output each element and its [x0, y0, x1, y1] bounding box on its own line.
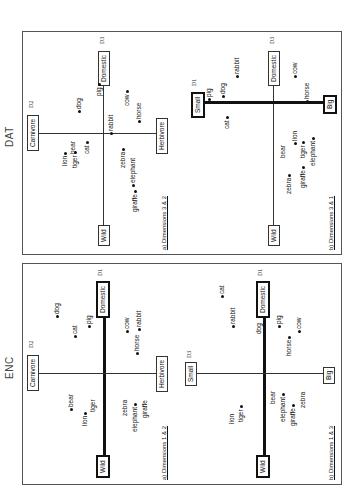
dot [132, 184, 135, 187]
dot [292, 404, 295, 407]
dot [134, 403, 137, 406]
dot [221, 295, 224, 298]
dot [84, 412, 87, 415]
point-cow: cow [295, 317, 302, 334]
point-bear: bear [269, 391, 276, 404]
plot-subtitle: b) Dimensions 1 & 3 [328, 426, 334, 480]
dot [122, 148, 125, 151]
group-label-enc: ENC [4, 356, 15, 379]
point-giraffe: giraffe [141, 400, 148, 418]
point-elephant: elephant [129, 158, 136, 188]
dim-label: D3 [186, 351, 192, 358]
dot [288, 174, 291, 177]
point-tiger: tiger [89, 399, 96, 412]
point-tiger: tiger [237, 404, 244, 422]
plot-subtitle: b) Dimensions 3 & 1 [328, 196, 334, 250]
dim-label: D3 [99, 37, 105, 44]
point-zebra: zebra [299, 392, 306, 408]
point-cow: cow [123, 89, 130, 106]
point-giraffe: giraffe [299, 165, 306, 188]
point-tiger: tiger [71, 150, 78, 168]
point-pig: pig [275, 315, 282, 329]
point-cat: cat [223, 115, 230, 129]
point-tiger: tiger [299, 140, 306, 158]
dim-label: D2 [28, 101, 34, 108]
axis-d2 [37, 133, 165, 134]
point-pig: pig [85, 315, 92, 329]
dot [98, 83, 101, 86]
pole-small: Small [191, 92, 205, 118]
plot-subtitle: a) Dimensions 1 & 2 [161, 426, 167, 480]
group-label-dat: DAT [4, 126, 15, 147]
pole-wild: Wild [98, 225, 110, 246]
dot [278, 325, 281, 328]
point-lion: lion [81, 411, 88, 426]
axis-d1 [201, 101, 331, 104]
point-zebra: zebra [121, 400, 128, 416]
pole-domestic: Domestic [256, 281, 270, 318]
pole-small: Small [185, 362, 197, 386]
point-bear: bear [279, 145, 286, 158]
point-rabbit: rabbit [135, 311, 142, 332]
point-dog: dog [219, 83, 226, 99]
point-zebra: zebra [119, 147, 126, 168]
point-horse: horse [133, 335, 140, 356]
point-elephant: elephant [279, 392, 286, 422]
point-horse: horse [303, 83, 310, 104]
dim-label: D1 [97, 269, 103, 276]
pole-wild: Wild [96, 455, 110, 478]
dot [226, 116, 229, 119]
dot [138, 120, 141, 123]
panel-dat: a) Dimensions 3 & 2 Wild Domestic D3 Car… [22, 31, 342, 255]
pole-domestic: Domestic [96, 281, 110, 318]
dot [86, 141, 89, 144]
pole-carnivore: Carnivore [27, 355, 39, 391]
point-elephant: elephant [309, 136, 316, 166]
dim-label: D2 [28, 341, 34, 348]
dot [306, 100, 309, 103]
dot [110, 132, 113, 135]
point-giraffe: giraffe [289, 403, 296, 426]
point-dog: dog [75, 98, 82, 114]
dot [56, 315, 59, 318]
point-elephant: elephant [131, 402, 138, 432]
dim-label: D3 [269, 37, 275, 44]
pole-domestic: Domestic [268, 51, 280, 86]
dot [70, 408, 73, 411]
dot [134, 190, 137, 193]
pole-herbivore: Herbivore [156, 118, 168, 154]
point-cat: cat [218, 285, 225, 299]
dot [302, 141, 305, 144]
pole-wild: Wild [268, 225, 280, 246]
point-rabbit: rabbit [229, 308, 236, 329]
point-lion: lion [291, 131, 298, 146]
pole-wild: Wild [256, 455, 270, 478]
dot [88, 325, 91, 328]
point-pig: pig [205, 88, 212, 102]
dot [138, 328, 141, 331]
point-horse: horse [135, 103, 142, 124]
point-giraffe: giraffe [131, 189, 138, 212]
dot [136, 352, 139, 355]
pole-domestic: Domestic [98, 51, 110, 86]
point-dog: dog [53, 303, 60, 319]
dot [288, 336, 291, 339]
point-cat: cat [83, 140, 90, 154]
panel-enc: a) Dimensions 1 & 2 Wild Domestic D1 Car… [22, 263, 342, 485]
pole-big: Big [323, 367, 335, 384]
dot [282, 393, 285, 396]
point-zebra: zebra [285, 173, 292, 194]
dot [240, 405, 243, 408]
point-lion: lion [61, 151, 68, 166]
dot [302, 166, 305, 169]
axis-d3 [193, 373, 328, 374]
point-horse: horse [285, 335, 292, 356]
dot [126, 90, 129, 93]
dot [294, 75, 297, 78]
figure-canvas: ENC DAT a) Dimensions 1 & 2 Wild Domesti… [0, 0, 353, 494]
point-pig: pig [95, 82, 102, 96]
dim-label: D1 [257, 269, 263, 276]
point-dog: dog [255, 323, 262, 334]
dot [78, 110, 81, 113]
dot [312, 137, 315, 140]
